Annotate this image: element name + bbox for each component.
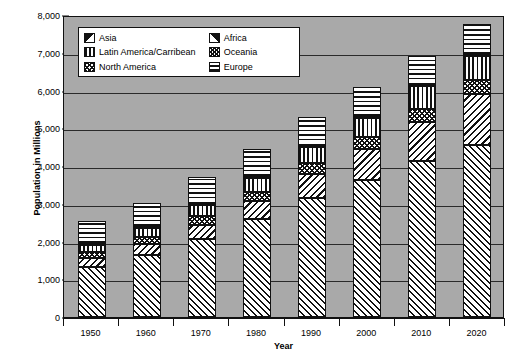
africa-pattern-swatch xyxy=(209,33,220,43)
x-tick-mark xyxy=(284,318,285,326)
stacked-bar xyxy=(353,87,381,317)
legend-label: Asia xyxy=(99,33,117,43)
europe-pattern-swatch xyxy=(209,62,220,72)
bar-segment-asia xyxy=(409,161,435,317)
y-tick-label: 7,000 xyxy=(16,49,60,59)
legend-label: Africa xyxy=(224,33,247,43)
x-tick-label: 2010 xyxy=(398,328,444,338)
stacked-bar xyxy=(243,149,271,317)
legend-item: Asia xyxy=(84,31,209,44)
bar-segment-north-america xyxy=(299,163,325,174)
stacked-bar xyxy=(78,221,106,317)
y-tick-label: 2,000 xyxy=(16,238,60,248)
y-tick-label: 5,000 xyxy=(16,124,60,134)
asia-pattern-swatch xyxy=(84,33,95,43)
bar-segment-asia xyxy=(79,267,105,317)
y-tick-label: 0 xyxy=(16,313,60,323)
y-tick-label: 3,000 xyxy=(16,200,60,210)
stacked-bar xyxy=(408,56,436,317)
legend-column-left: AsiaLatin America/CarribeanNorth America xyxy=(84,31,209,73)
legend: AsiaLatin America/CarribeanNorth America… xyxy=(78,27,300,77)
stacked-bar xyxy=(298,117,326,317)
x-tick-mark xyxy=(63,318,64,326)
bar-segment-north-america xyxy=(134,237,160,245)
latin-america-pattern-swatch xyxy=(84,47,95,57)
legend-label: North America xyxy=(99,62,156,72)
bar-segment-europe xyxy=(354,88,380,115)
bar-segment-north-america xyxy=(354,137,380,149)
x-tick-label: 2000 xyxy=(343,328,389,338)
x-tick-label: 1980 xyxy=(233,328,279,338)
bar-segment-asia xyxy=(244,219,270,317)
bar-segment-africa xyxy=(299,174,325,198)
north-america-pattern-swatch xyxy=(84,62,95,72)
bar-segment-africa xyxy=(189,225,215,239)
bar-segment-latin-america-carribean xyxy=(409,86,435,108)
legend-column-right: AfricaOceaniaEurope xyxy=(209,31,294,73)
legend-label: Oceania xyxy=(224,47,258,57)
x-tick-label: 1960 xyxy=(123,328,169,338)
bar-segment-africa xyxy=(409,122,435,161)
x-tick-mark xyxy=(173,318,174,326)
bar-segment-europe xyxy=(244,150,270,176)
legend-item: Oceania xyxy=(209,46,294,59)
bar-segment-africa xyxy=(134,244,160,255)
bar-segment-north-america xyxy=(189,216,215,225)
y-tick-label: 6,000 xyxy=(16,87,60,97)
bar-segment-north-america xyxy=(464,80,490,94)
stacked-bar xyxy=(133,203,161,317)
x-tick-mark xyxy=(449,318,450,326)
bar-segment-europe xyxy=(189,178,215,203)
x-tick-label: 1950 xyxy=(68,328,114,338)
legend-item: Africa xyxy=(209,31,294,44)
x-tick-label: 1970 xyxy=(178,328,224,338)
x-tick-mark xyxy=(394,318,395,326)
stacked-bar xyxy=(188,177,216,317)
y-axis-ticks: 01,0002,0003,0004,0005,0006,0007,0008,00… xyxy=(16,16,60,318)
x-tick-mark xyxy=(504,318,505,326)
x-tick-mark xyxy=(118,318,119,326)
bar-segment-europe xyxy=(299,118,325,145)
x-tick-label: 1990 xyxy=(288,328,334,338)
bar-segment-africa xyxy=(354,149,380,180)
bar-segment-latin-america-carribean xyxy=(134,228,160,236)
bar-segment-north-america xyxy=(244,192,270,201)
stacked-bar-chart: Population in Millions 01,0002,0003,0004… xyxy=(0,0,518,354)
bar-segment-asia xyxy=(299,198,325,317)
legend-item: Latin America/Carribean xyxy=(84,46,209,59)
bar-segment-europe xyxy=(79,222,105,243)
x-tick-mark xyxy=(339,318,340,326)
legend-item: North America xyxy=(84,60,209,73)
bar-segment-africa xyxy=(244,201,270,219)
legend-item: Europe xyxy=(209,60,294,73)
bar-segment-latin-america-carribean xyxy=(299,147,325,164)
bar-segment-europe xyxy=(464,25,490,53)
bar-segment-asia xyxy=(464,145,490,317)
bar-segment-north-america xyxy=(409,109,435,122)
bar-segment-europe xyxy=(134,204,160,227)
x-tick-label: 2020 xyxy=(453,328,499,338)
bar-segment-africa xyxy=(79,258,105,267)
stacked-bar xyxy=(463,24,491,317)
bar-segment-latin-america-carribean xyxy=(189,205,215,216)
bar-segment-asia xyxy=(189,239,215,317)
y-tick-label: 4,000 xyxy=(16,162,60,172)
oceania-pattern-swatch xyxy=(209,47,220,57)
bar-segment-latin-america-carribean xyxy=(464,56,490,81)
bar-segment-africa xyxy=(464,94,490,145)
bar-segment-europe xyxy=(409,57,435,85)
legend-label: Latin America/Carribean xyxy=(99,47,196,57)
y-tick-label: 8,000 xyxy=(16,11,60,21)
x-axis-title: Year xyxy=(63,341,504,351)
bar-segment-latin-america-carribean xyxy=(354,118,380,138)
x-tick-mark xyxy=(228,318,229,326)
y-tick-label: 1,000 xyxy=(16,275,60,285)
bar-segment-latin-america-carribean xyxy=(244,178,270,192)
bar-segment-asia xyxy=(134,255,160,317)
bar-segment-asia xyxy=(354,180,380,318)
legend-label: Europe xyxy=(224,62,253,72)
